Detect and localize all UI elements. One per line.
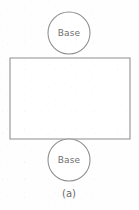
body-rectangle bbox=[10, 58, 130, 139]
top-base-label: Base bbox=[58, 28, 80, 38]
figure-caption: (a) bbox=[62, 188, 76, 199]
bottom-base-label: Base bbox=[58, 155, 80, 165]
figure-container: Base Base (a) bbox=[0, 0, 139, 210]
